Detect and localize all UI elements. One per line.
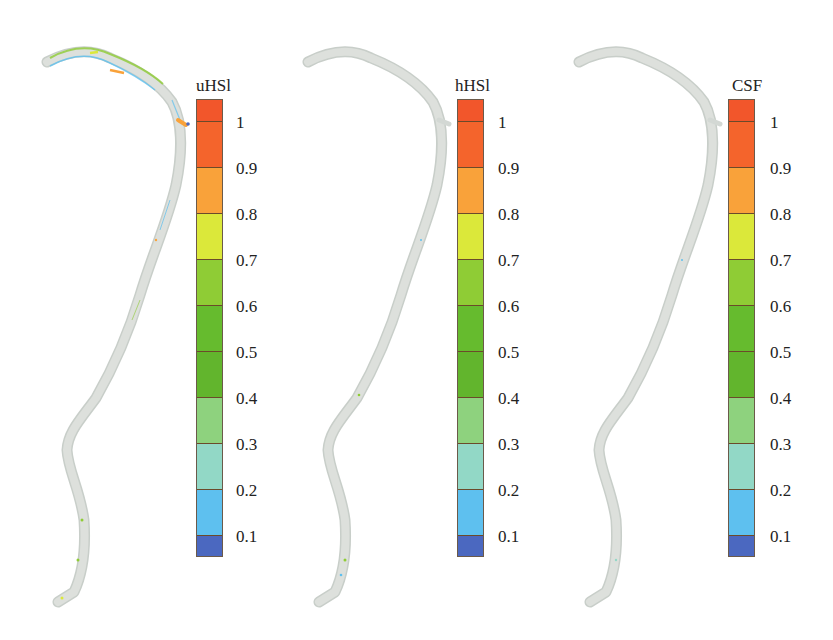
panel-csf: CSF 1 0.9 0.8 0.7 0.6 0.5 0.4 0.3 0.2 0.… (532, 0, 809, 640)
tick-label: 0.2 (498, 482, 519, 499)
colorbar-segment (197, 490, 222, 536)
colorbar-segment (729, 168, 754, 214)
colorbar-segment (197, 260, 222, 306)
tick-label: 0.6 (498, 298, 519, 315)
colorbar-segment (729, 214, 754, 260)
tick-label: 0.2 (770, 482, 791, 499)
colorbar-segment (458, 444, 483, 490)
colorbar-segment (458, 214, 483, 260)
tick-label: 0.8 (236, 206, 257, 223)
colorbar-segment (197, 214, 222, 260)
river-map-hhsi (261, 0, 538, 640)
tick-label: 0.6 (236, 298, 257, 315)
tick-label: 0.9 (770, 160, 791, 177)
river-map-csf (532, 0, 809, 640)
tick-label: 0.1 (498, 528, 519, 545)
colorbar-segment (458, 168, 483, 214)
colorbar-segment (458, 352, 483, 398)
tick-label: 0.5 (498, 344, 519, 361)
colorbar-title: uHSl (196, 76, 231, 96)
tick-label: 0.9 (236, 160, 257, 177)
colorbar-segment (197, 352, 222, 398)
tick-label: 0.5 (770, 344, 791, 361)
colorbar-segment (197, 536, 222, 556)
colorbar-segment (729, 100, 754, 122)
tick-label: 0.2 (236, 482, 257, 499)
colorbar-segment (458, 260, 483, 306)
colorbar-segment (197, 306, 222, 352)
tick-label: 0.4 (236, 390, 257, 407)
colorbar-segment (729, 352, 754, 398)
tick-label: 0.7 (770, 252, 791, 269)
colorbar-segment (197, 100, 222, 122)
colorbar-segment (458, 122, 483, 168)
colorbar-segment (458, 490, 483, 536)
tick-label: 0.4 (770, 390, 791, 407)
colorbar (728, 99, 755, 557)
colorbar-segment (197, 122, 222, 168)
colorbar-title: CSF (732, 76, 762, 96)
colorbar-segment (458, 306, 483, 352)
tick-label: 1 (236, 114, 245, 131)
colorbar-segment (729, 536, 754, 556)
panel-uhsi: uHSl 1 0.9 0.8 0.7 0.6 0.5 0.4 0.3 0.2 0… (0, 0, 277, 640)
tick-label: 1 (770, 114, 779, 131)
tick-label: 1 (498, 114, 507, 131)
tick-label: 0.3 (770, 436, 791, 453)
tick-label: 0.1 (770, 528, 791, 545)
tick-label: 0.3 (236, 436, 257, 453)
colorbar (457, 99, 484, 557)
tick-label: 0.8 (770, 206, 791, 223)
colorbar-segment (458, 398, 483, 444)
tick-label: 0.6 (770, 298, 791, 315)
colorbar-segment (729, 260, 754, 306)
colorbar-segment (729, 306, 754, 352)
tick-label: 0.3 (498, 436, 519, 453)
panel-hhsi: hHSl 1 0.9 0.8 0.7 0.6 0.5 0.4 0.3 0.2 0… (261, 0, 538, 640)
tick-label: 0.7 (498, 252, 519, 269)
colorbar-segment (458, 536, 483, 556)
tick-label: 0.9 (498, 160, 519, 177)
colorbar-segment (197, 444, 222, 490)
tick-label: 0.1 (236, 528, 257, 545)
tick-label: 0.5 (236, 344, 257, 361)
colorbar-segment (729, 490, 754, 536)
colorbar-title: hHSl (455, 76, 490, 96)
tick-label: 0.7 (236, 252, 257, 269)
colorbar-segment (729, 398, 754, 444)
tick-label: 0.8 (498, 206, 519, 223)
colorbar-segment (197, 168, 222, 214)
tick-label: 0.4 (498, 390, 519, 407)
colorbar-segment (729, 444, 754, 490)
colorbar-segment (458, 100, 483, 122)
colorbar (196, 99, 223, 557)
colorbar-segment (197, 398, 222, 444)
colorbar-segment (729, 122, 754, 168)
